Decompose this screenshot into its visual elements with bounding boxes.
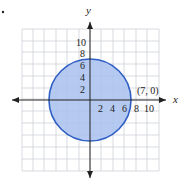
x-tick-6: 6	[122, 103, 127, 114]
x-tick-2: 2	[98, 103, 103, 114]
x-axis-label: x	[172, 93, 178, 105]
axes	[12, 22, 166, 178]
circle-graph: y x 10 8 6 4 2 2 4 6 8 10 (7, 0)	[0, 0, 181, 192]
y-axis-up-arrow-icon	[87, 22, 93, 29]
x-axis-left-arrow-icon	[12, 97, 19, 103]
y-tick-10: 10	[76, 37, 86, 48]
y-axis-down-arrow-icon	[87, 171, 93, 178]
x-tick-4: 4	[110, 103, 115, 114]
y-axis-label: y	[85, 4, 91, 16]
bullet-dot	[2, 11, 4, 13]
y-tick-6: 6	[80, 60, 85, 71]
x-tick-10: 10	[144, 103, 154, 114]
point-annotation: (7, 0)	[137, 85, 159, 97]
x-tick-8: 8	[134, 103, 139, 114]
y-tick-2: 2	[80, 84, 85, 95]
y-tick-4: 4	[80, 72, 85, 83]
y-tick-8: 8	[80, 48, 85, 59]
x-axis-right-arrow-icon	[159, 97, 166, 103]
